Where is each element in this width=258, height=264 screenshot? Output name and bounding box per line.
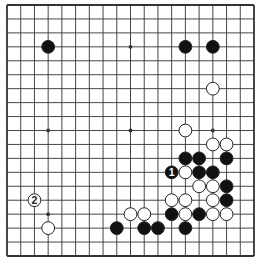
black-stone	[193, 166, 206, 179]
star-point	[129, 129, 133, 133]
black-stone	[206, 166, 219, 179]
white-stone	[179, 208, 192, 221]
white-stone	[179, 166, 192, 179]
move-number-label: 1	[169, 166, 175, 178]
black-stone	[165, 208, 178, 221]
black-stone	[220, 180, 233, 193]
black-stone	[206, 40, 219, 53]
black-stone	[42, 40, 55, 53]
black-stone: 1	[165, 166, 178, 179]
white-stone	[42, 222, 55, 235]
black-stone	[193, 208, 206, 221]
black-stone	[179, 222, 192, 235]
white-stone	[206, 82, 219, 95]
white-stone	[206, 180, 219, 193]
black-stone	[193, 152, 206, 165]
move-number-label: 2	[32, 194, 38, 206]
star-point	[211, 129, 215, 133]
star-point	[129, 45, 133, 49]
black-stone	[138, 222, 151, 235]
white-stone: 2	[28, 194, 41, 207]
star-point	[46, 212, 50, 216]
white-stone	[220, 208, 233, 221]
white-stone	[220, 138, 233, 151]
black-stone	[179, 152, 192, 165]
black-stone	[179, 40, 192, 53]
white-stone	[179, 194, 192, 207]
white-stone	[138, 208, 151, 221]
black-stone	[152, 222, 165, 235]
black-stone	[110, 222, 123, 235]
white-stone	[193, 180, 206, 193]
star-point	[46, 129, 50, 133]
white-stone	[206, 194, 219, 207]
white-stone	[206, 138, 219, 151]
black-stone	[220, 194, 233, 207]
white-stone	[124, 208, 137, 221]
white-stone	[206, 208, 219, 221]
black-stone	[220, 152, 233, 165]
white-stone	[179, 124, 192, 137]
go-board: 12	[0, 0, 258, 264]
white-stone	[165, 194, 178, 207]
